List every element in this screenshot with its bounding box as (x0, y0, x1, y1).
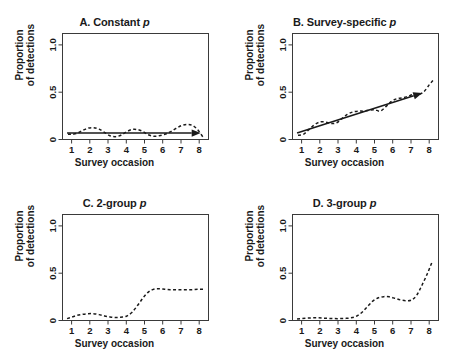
panel-d-plot: 0 0.5 1.0 1 2 3 (230, 181, 459, 361)
panel-a-xtick-labels: 1 2 3 4 5 6 7 8 (69, 144, 202, 155)
svg-text:0: 0 (277, 318, 288, 323)
svg-text:0: 0 (47, 318, 58, 323)
svg-text:7: 7 (408, 325, 413, 336)
svg-text:2: 2 (317, 144, 322, 155)
panel-c-data (67, 289, 203, 319)
svg-text:0: 0 (47, 137, 58, 142)
svg-text:5: 5 (372, 325, 378, 336)
panel-b-ytick-labels: 0 0.5 1.0 (277, 38, 288, 142)
svg-text:2: 2 (87, 144, 92, 155)
svg-text:3: 3 (105, 325, 110, 336)
panel-d-xtick-labels: 1 2 3 4 5 6 7 8 (299, 325, 432, 336)
svg-text:7: 7 (178, 325, 183, 336)
svg-text:7: 7 (408, 144, 413, 155)
panel-c-axes: 0 0.5 1.0 1 2 3 (47, 215, 209, 337)
svg-text:6: 6 (160, 325, 165, 336)
panel-c-xtick-labels: 1 2 3 4 5 6 7 8 (69, 325, 202, 336)
svg-text:2: 2 (87, 325, 92, 336)
panel-d-ytick-marks (289, 226, 293, 321)
panel-c-ytick-marks (59, 226, 63, 321)
panel-b-ytick-marks (289, 45, 293, 140)
panel-b-data (297, 80, 433, 135)
panel-c-plot: 0 0.5 1.0 1 2 3 (0, 181, 229, 361)
panel-d-axes: 0 0.5 1.0 1 2 3 (277, 215, 439, 337)
svg-text:3: 3 (335, 325, 340, 336)
svg-text:1: 1 (299, 325, 305, 336)
svg-text:8: 8 (427, 325, 432, 336)
panel-c-ytick-labels: 0 0.5 1.0 (47, 219, 58, 323)
panel-d-xtick-marks (302, 321, 430, 325)
svg-text:1: 1 (299, 144, 305, 155)
panel-b-xtick-labels: 1 2 3 4 5 6 7 8 (299, 144, 432, 155)
figure-container: A. Constant p Proportion of detections S… (0, 0, 459, 361)
svg-text:4: 4 (354, 325, 360, 336)
svg-text:0.5: 0.5 (47, 266, 58, 280)
panel-a-axes: 0 0.5 1.0 1 2 3 (47, 34, 209, 156)
svg-text:6: 6 (390, 325, 395, 336)
svg-text:0.5: 0.5 (277, 85, 288, 99)
svg-text:1.0: 1.0 (277, 219, 288, 232)
panel-d-ytick-labels: 0 0.5 1.0 (277, 219, 288, 323)
panel-c: C. 2-group p Proportion of detections Su… (0, 181, 229, 361)
panel-a-data (67, 124, 203, 137)
panel-c-xtick-marks (72, 321, 200, 325)
svg-text:6: 6 (390, 144, 395, 155)
panel-b-xtick-marks (302, 140, 430, 144)
panel-a-xtick-marks (72, 140, 200, 144)
panel-a-ytick-labels: 0 0.5 1.0 (47, 38, 58, 142)
svg-text:2: 2 (317, 325, 322, 336)
svg-text:1: 1 (69, 144, 75, 155)
svg-text:4: 4 (354, 144, 360, 155)
svg-text:4: 4 (124, 144, 130, 155)
panel-d-data (297, 262, 432, 319)
svg-text:3: 3 (105, 144, 110, 155)
svg-text:8: 8 (427, 144, 432, 155)
svg-text:7: 7 (178, 144, 183, 155)
panel-a-ytick-marks (59, 45, 63, 140)
svg-text:0.5: 0.5 (47, 85, 58, 99)
svg-text:5: 5 (372, 144, 378, 155)
svg-text:8: 8 (197, 144, 202, 155)
svg-text:6: 6 (160, 144, 165, 155)
svg-text:1.0: 1.0 (47, 38, 58, 51)
svg-text:5: 5 (142, 325, 148, 336)
svg-text:4: 4 (124, 325, 130, 336)
svg-text:1: 1 (69, 325, 75, 336)
svg-text:5: 5 (142, 144, 148, 155)
svg-text:1.0: 1.0 (47, 219, 58, 232)
svg-text:8: 8 (197, 325, 202, 336)
svg-text:3: 3 (335, 144, 340, 155)
svg-text:1.0: 1.0 (277, 38, 288, 51)
svg-text:0: 0 (277, 137, 288, 142)
panel-d: D. 3-group p Proportion of detections Su… (230, 181, 459, 361)
svg-text:0.5: 0.5 (277, 266, 288, 280)
